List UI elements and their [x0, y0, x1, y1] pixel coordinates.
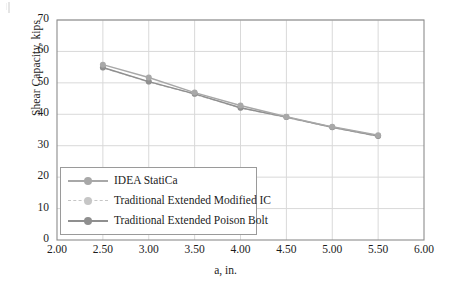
- x-tick-label: 4.00: [218, 243, 264, 255]
- x-tick-label: 5.50: [355, 243, 401, 255]
- x-tick-label: 4.50: [263, 243, 309, 255]
- x-tick-label: 2.00: [34, 243, 80, 255]
- y-tick-label: 30: [15, 138, 49, 150]
- x-tick-label: 6.00: [401, 243, 447, 255]
- x-tick-label: 2.50: [80, 243, 126, 255]
- y-tick-label: 50: [15, 75, 49, 87]
- legend-label-series-1: Traditional Extended Modified IC: [114, 195, 271, 207]
- series-marker-0: [238, 102, 244, 108]
- x-tick-label: 5.00: [309, 243, 355, 255]
- legend-marker-icon: [84, 177, 92, 185]
- series-marker-0: [146, 75, 152, 81]
- x-tick-label: 3.50: [172, 243, 218, 255]
- legend-swatch-series-2: [68, 215, 108, 227]
- legend-item: IDEA StatiCa: [68, 171, 178, 191]
- y-tick-label: 10: [15, 201, 49, 213]
- figure: Shear Capacity, kips a, in. 010203040506…: [0, 0, 451, 285]
- legend-marker-icon: [84, 197, 92, 205]
- legend-label-series-2: Traditional Extended Poison Bolt: [114, 215, 268, 227]
- series-marker-0: [192, 90, 198, 96]
- y-tick-label: 60: [15, 43, 49, 55]
- y-tick-label: 40: [15, 106, 49, 118]
- legend-swatch-series-0: [68, 175, 108, 187]
- series-marker-0: [329, 124, 335, 130]
- y-tick-label: 70: [15, 12, 49, 24]
- series-marker-0: [283, 114, 289, 120]
- x-axis-label: a, in.: [0, 264, 451, 276]
- series-marker-0: [375, 132, 381, 138]
- legend-item: Traditional Extended Modified IC: [68, 191, 271, 211]
- legend-label-series-0: IDEA StatiCa: [114, 175, 178, 187]
- series-marker-0: [100, 62, 106, 68]
- y-tick-label: 20: [15, 169, 49, 181]
- legend-swatch-series-1: [68, 195, 108, 207]
- legend-marker-icon: [84, 217, 92, 225]
- x-tick-label: 3.00: [126, 243, 172, 255]
- chart-legend: IDEA StatiCa Traditional Extended Modifi…: [60, 167, 257, 235]
- legend-item: Traditional Extended Poison Bolt: [68, 211, 268, 231]
